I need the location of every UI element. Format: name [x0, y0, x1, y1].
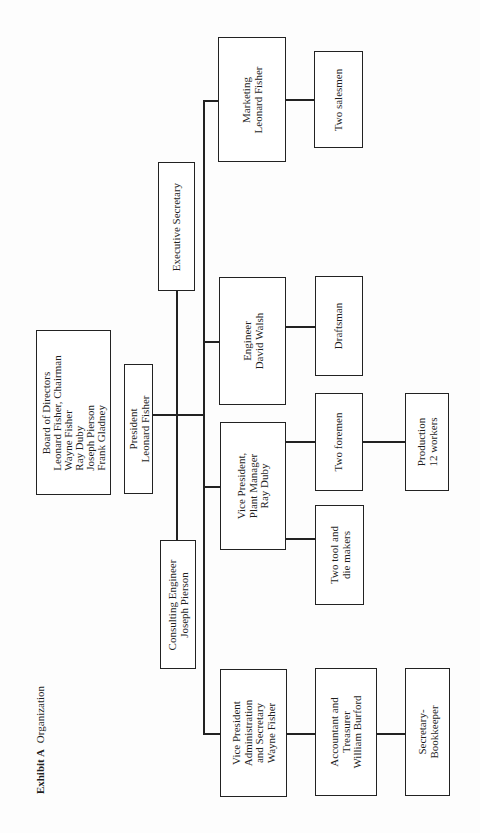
president-connector	[152, 414, 204, 416]
node-line: President	[127, 396, 139, 463]
consulting-engineer-box: Consulting Engineer Joseph Pierson	[160, 540, 196, 669]
node-line: David Walsh	[253, 313, 265, 370]
node-line: Marketing	[241, 66, 253, 133]
draftsman-connector	[285, 326, 315, 328]
engineer-box: Engineer David Walsh	[219, 277, 286, 405]
board-member: Leonard Fisher, Chairman	[52, 355, 63, 470]
board-member: Ray Duby	[74, 355, 85, 470]
node-line: Accountant and	[329, 695, 341, 768]
president-box: President Leonard Fisher	[124, 364, 153, 494]
node-line: Administration	[242, 700, 254, 767]
node-line: Production	[416, 417, 428, 466]
foremen-connector	[285, 441, 315, 443]
foremen-box: Two foremen	[315, 393, 363, 491]
production-connector	[362, 441, 405, 443]
board-member: Frank Gladney	[96, 355, 107, 470]
board-title: Board of Directors	[41, 355, 52, 470]
exhibit-label: Exhibit A	[34, 749, 46, 794]
node-line: Secretary-	[416, 705, 428, 758]
secretary-bookkeeper-box: Secretary- Bookkeeper	[405, 668, 450, 796]
marketing-box: Marketing Leonard Fisher	[218, 37, 286, 162]
node-line: Draftsman	[333, 303, 345, 349]
node-line: Vice President	[231, 700, 243, 767]
node-line: Leonard Fisher	[252, 66, 264, 133]
node-line: Bookkeeper	[428, 705, 440, 758]
accountant-treasurer-box: Accountant and Treasurer William Burford	[315, 668, 377, 796]
tool-die-makers-box: Two tool and die makers	[315, 505, 364, 605]
executive-secretary-box: Executive Secretary	[158, 162, 195, 291]
vp-administration-box: Vice President Administration and Secret…	[220, 669, 287, 797]
tool-die-connector	[285, 538, 315, 540]
org-chart: Exhibit AOrganization Board of Directors…	[0, 0, 480, 833]
node-line: Ray Duby	[259, 453, 271, 520]
board-member: Wayne Fisher	[63, 355, 74, 470]
node-line: Engineer	[241, 313, 253, 370]
node-line: die makers	[340, 526, 352, 584]
node-line: Two foremen	[333, 413, 345, 472]
node-line: and Secretary	[254, 700, 266, 767]
node-line: Joseph Pierson	[178, 559, 190, 650]
engineer-connector	[203, 341, 219, 343]
node-line: Leonard Fisher	[139, 396, 151, 463]
node-line: William Burford	[352, 695, 364, 768]
node-line: Two tool and	[328, 526, 340, 584]
exhibit-caption: Exhibit AOrganization	[34, 686, 46, 794]
board-member: Joseph Pierson	[85, 355, 96, 470]
marketing-connector	[203, 100, 219, 102]
draftsman-box: Draftsman	[315, 276, 363, 376]
trunk-line	[203, 100, 205, 735]
production-box: Production 12 workers	[405, 393, 449, 491]
accountant-connector	[286, 733, 315, 735]
node-line: 12 workers	[427, 417, 439, 466]
salesmen-connector	[285, 99, 314, 101]
salesmen-box: Two salesmen	[314, 51, 363, 148]
node-line: Vice President,	[236, 453, 248, 520]
node-line: Wayne Fisher	[265, 700, 277, 767]
vp-plant-connector	[203, 486, 220, 488]
vp-admin-connector	[203, 733, 220, 735]
node-line: Executive Secretary	[171, 182, 183, 270]
exhibit-title: Organization	[34, 686, 46, 743]
vp-plant-manager-box: Vice President, Plant Manager Ray Duby	[220, 422, 286, 550]
bookkeeper-connector	[376, 733, 405, 735]
node-line: Consulting Engineer	[167, 559, 179, 650]
board-of-directors-box: Board of Directors Leonard Fisher, Chair…	[36, 330, 111, 495]
node-line: Two salesmen	[333, 68, 345, 130]
